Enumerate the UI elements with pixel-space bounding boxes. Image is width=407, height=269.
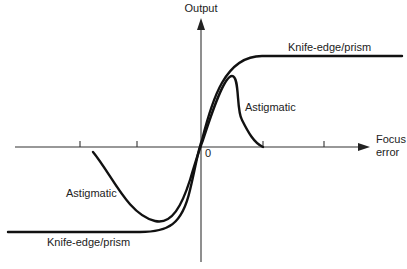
astigmatic-label-lower: Astigmatic xyxy=(66,187,117,199)
knife-edge-prism-curve xyxy=(8,56,402,232)
astigmatic-curve xyxy=(93,76,263,222)
y-axis-label: Output xyxy=(184,2,217,14)
focus-error-diagram: Output Focus error 0 Knife-edge/prism Kn… xyxy=(0,0,407,269)
knife-edge-label-bottom: Knife-edge/prism xyxy=(47,236,130,248)
origin-label: 0 xyxy=(205,147,211,159)
x-axis-label-line1: Focus xyxy=(376,133,406,145)
x-axis-label-line2: error xyxy=(376,146,400,158)
x-axis-arrow-icon xyxy=(358,143,370,151)
astigmatic-label-upper: Astigmatic xyxy=(245,101,296,113)
knife-edge-label-top: Knife-edge/prism xyxy=(288,41,371,53)
y-axis-arrow-icon xyxy=(197,18,205,30)
